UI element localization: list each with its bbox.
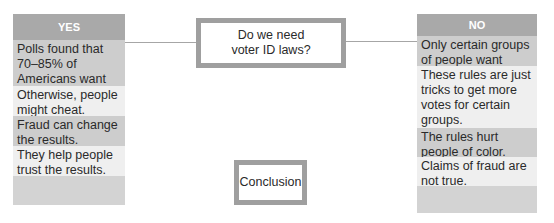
no-reason-3: The rules hurt people of color. <box>417 128 537 157</box>
yes-header: YES <box>13 14 125 40</box>
no-reason-2: These rules are just tricks to get more … <box>417 66 537 128</box>
question-text: Do we need voter ID laws? <box>201 23 341 63</box>
connector-left <box>125 42 196 43</box>
yes-reason-2: Otherwise, people might cheat. <box>13 86 125 116</box>
no-reason-4: Claims of fraud are not true. <box>417 157 537 186</box>
no-header: NO <box>417 14 537 36</box>
yes-reason-4: They help people trust the results. <box>13 146 125 176</box>
conclusion-text: Conclusion <box>239 165 302 200</box>
no-column: NO Only certain groups of people want th… <box>417 14 537 213</box>
yes-reason-empty <box>13 176 125 205</box>
yes-reason-3: Fraud can change the results. <box>13 116 125 146</box>
no-reason-empty <box>417 186 537 213</box>
yes-reason-1: Polls found that 70–85% of Americans wan… <box>13 40 125 86</box>
yes-column: YES Polls found that 70–85% of Americans… <box>13 14 125 205</box>
conclusion-box: Conclusion <box>234 160 307 205</box>
no-reason-1: Only certain groups of people want them. <box>417 36 537 66</box>
question-box: Do we need voter ID laws? <box>196 18 346 68</box>
connector-right <box>346 41 417 42</box>
